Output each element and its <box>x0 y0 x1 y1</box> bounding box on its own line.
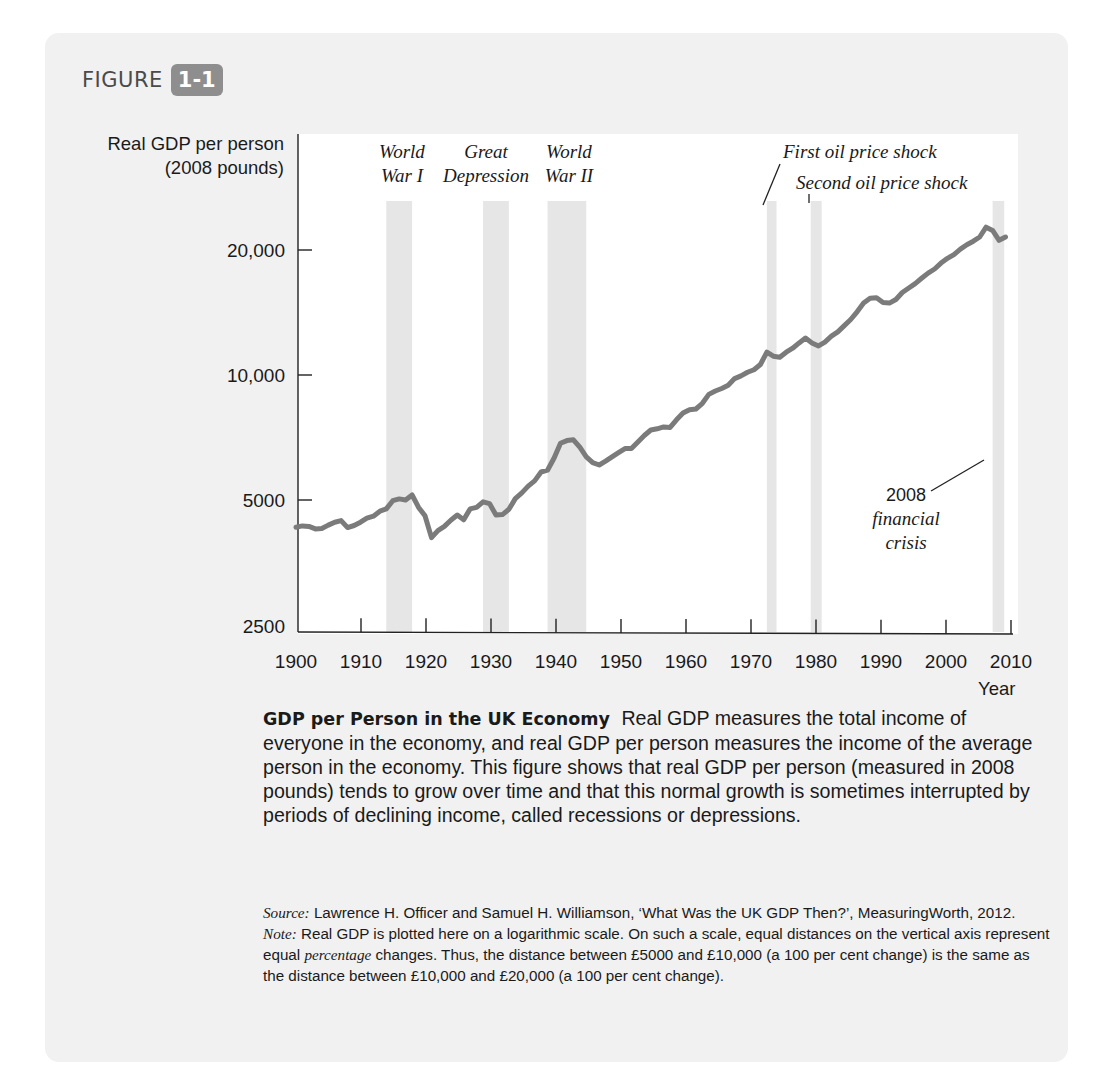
scale-note: Note: Real GDP is plotted here on a loga… <box>263 923 1053 986</box>
figure-notes: Source: Lawrence H. Officer and Samuel H… <box>263 902 1053 986</box>
source-note: Source: Lawrence H. Officer and Samuel H… <box>263 902 1053 923</box>
y-tick-label: 10,000 <box>227 365 285 386</box>
gdp-line-chart: WorldWar IGreatDepressionWorldWar IIFirs… <box>0 0 1111 700</box>
source-text: Lawrence H. Officer and Samuel H. Willia… <box>314 904 1015 921</box>
x-tick-label: 1930 <box>470 651 512 672</box>
x-tick-label: 1990 <box>860 651 902 672</box>
x-tick-label: 2000 <box>925 651 967 672</box>
source-label: Source: <box>263 904 310 921</box>
note-label: Note: <box>263 925 297 942</box>
x-tick-label: 1910 <box>340 651 382 672</box>
x-tick-label: 1960 <box>665 651 707 672</box>
figure-caption: GDP per Person in the UK Economy Real GD… <box>263 706 1033 827</box>
x-tick-label: 1920 <box>405 651 447 672</box>
shaded-band-2008-financial-crisis <box>993 201 1005 632</box>
caption-title: GDP per Person in the UK Economy <box>263 709 610 729</box>
x-tick-label: 2010 <box>990 651 1032 672</box>
shaded-band-world-war-i <box>386 201 412 632</box>
y-tick-label: 2500 <box>243 616 285 637</box>
x-tick-label: 1980 <box>795 651 837 672</box>
x-tick-label: 1970 <box>730 651 772 672</box>
note-emphasis: percentage <box>304 946 371 963</box>
shaded-band-first-oil-price-shock <box>767 201 777 632</box>
y-tick-label: 5000 <box>243 490 285 511</box>
x-axis-title: Year <box>978 678 1015 700</box>
note-text-2: changes. Thus, the distance between £500… <box>263 946 1030 984</box>
x-tick-label: 1900 <box>275 651 317 672</box>
shaded-band-great-depression <box>483 201 509 632</box>
annotation-second-oil-price-shock: Second oil price shock <box>796 172 968 193</box>
x-tick-label: 1950 <box>600 651 642 672</box>
shaded-band-second-oil-price-shock <box>811 201 822 632</box>
shaded-band-world-war-ii <box>548 201 587 632</box>
annotation-first-oil-price-shock: First oil price shock <box>782 141 937 162</box>
x-tick-label: 1940 <box>535 651 577 672</box>
y-tick-label: 20,000 <box>227 240 285 261</box>
